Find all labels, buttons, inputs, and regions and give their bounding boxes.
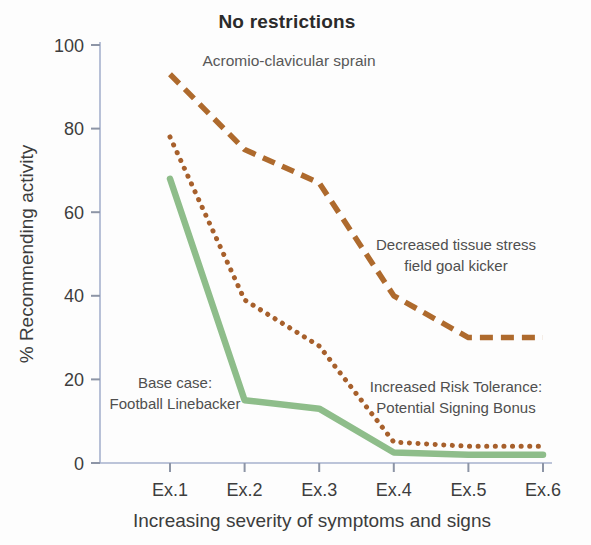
annotation-solid-line2: Football Linebacker (110, 395, 241, 412)
x-tick-label: Ex.1 (152, 480, 188, 500)
chart-title: No restrictions (218, 11, 355, 33)
y-tick-label: 0 (74, 454, 84, 474)
y-tick-label: 20 (64, 370, 84, 390)
y-tick-label: 100 (54, 36, 84, 56)
y-tick-label: 80 (64, 119, 84, 139)
x-tick-label: Ex.4 (376, 480, 412, 500)
x-tick-label: Ex.5 (450, 480, 486, 500)
annotation-dotted-line2: Potential Signing Bonus (376, 399, 535, 416)
annotation-dotted-series: Increased Risk Tolerance: Potential Sign… (370, 376, 542, 419)
annotation-dotted-line1: Increased Risk Tolerance: (370, 378, 542, 395)
y-tick-label: 40 (64, 286, 84, 306)
x-axis-title: Increasing severity of symptoms and sign… (133, 510, 491, 532)
y-tick-label: 60 (64, 203, 84, 223)
y-axis-title: % Recommending activity (16, 145, 38, 364)
annotation-solid-series: Base case: Football Linebacker (110, 372, 241, 415)
annotation-dashed-series: Decreased tissue stress field goal kicke… (376, 234, 536, 277)
annotation-dashed-line1: Decreased tissue stress (376, 236, 536, 253)
x-tick-label: Ex.2 (227, 480, 263, 500)
x-tick-label: Ex.6 (525, 480, 561, 500)
x-tick-label: Ex.3 (301, 480, 337, 500)
annotation-solid-line1: Base case: (138, 374, 212, 391)
series-dashed-line (170, 74, 543, 337)
chart-subtitle: Acromio-clavicular sprain (202, 52, 375, 70)
line-chart-figure: 020406080100Ex.1Ex.2Ex.3Ex.4Ex.5Ex.6 No … (0, 0, 591, 545)
annotation-dashed-line2: field goal kicker (404, 257, 507, 274)
